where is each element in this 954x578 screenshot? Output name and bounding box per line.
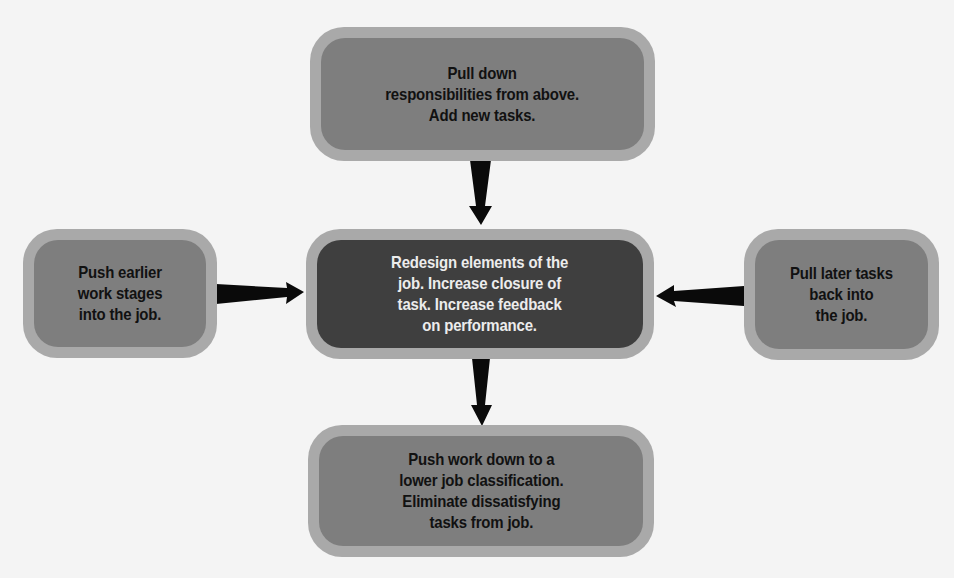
node-right-label: Pull later tasks back into the job. bbox=[790, 263, 893, 326]
node-left: Push earlier work stages into the job. bbox=[23, 229, 217, 358]
arrow-down-icon bbox=[469, 160, 492, 225]
node-right-inner: Pull later tasks back into the job. bbox=[755, 240, 928, 349]
node-top-inner: Pull down responsibilities from above. A… bbox=[321, 38, 644, 150]
node-right: Pull later tasks back into the job. bbox=[744, 229, 939, 360]
job-redesign-diagram: Pull down responsibilities from above. A… bbox=[0, 0, 954, 578]
arrow-right-icon bbox=[216, 282, 304, 304]
arrow-down-icon bbox=[471, 358, 492, 426]
node-bottom-inner: Push work down to a lower job classifica… bbox=[319, 436, 643, 546]
node-left-inner: Push earlier work stages into the job. bbox=[34, 240, 206, 347]
node-bottom: Push work down to a lower job classifica… bbox=[308, 425, 654, 557]
arrow-left-icon bbox=[656, 285, 744, 307]
node-center-label: Redesign elements of the job. Increase c… bbox=[391, 252, 568, 336]
node-left-label: Push earlier work stages into the job. bbox=[78, 262, 163, 325]
node-top: Pull down responsibilities from above. A… bbox=[310, 27, 655, 161]
node-center-inner: Redesign elements of the job. Increase c… bbox=[317, 240, 643, 348]
node-top-label: Pull down responsibilities from above. A… bbox=[386, 63, 580, 126]
node-center: Redesign elements of the job. Increase c… bbox=[306, 229, 654, 359]
node-bottom-label: Push work down to a lower job classifica… bbox=[399, 449, 563, 533]
